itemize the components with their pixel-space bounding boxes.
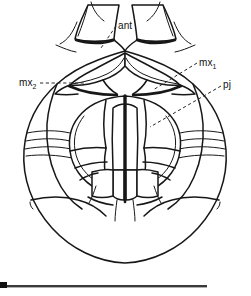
label-maxilla-two: mx2 xyxy=(19,78,37,90)
label-palp-joint: pj xyxy=(223,80,231,90)
lateral-lobe-right-notch xyxy=(217,202,220,209)
antenna-left-group xyxy=(56,2,119,52)
antenna-right-group xyxy=(132,2,195,52)
antenna-right-outer-spur xyxy=(174,22,191,44)
figure-container: ant mx1 mx2 pj xyxy=(0,0,251,296)
label-maxilla-two-subscript: 2 xyxy=(33,83,37,90)
label-maxilla-one-subscript: 1 xyxy=(213,63,217,70)
antenna-right-lateral-line xyxy=(175,45,195,52)
scale-bar-line xyxy=(3,285,207,287)
label-maxilla-one-text: mx xyxy=(199,57,213,68)
antenna-left-lateral-line xyxy=(56,45,76,52)
interantennal-notch xyxy=(114,40,137,51)
anatomical-line-drawing xyxy=(0,0,251,296)
antenna-left-segment xyxy=(75,5,119,41)
label-maxilla-one: mx1 xyxy=(199,58,217,70)
label-antenna-text: ant xyxy=(118,20,132,31)
labial-palp-right xyxy=(126,170,137,200)
labial-palp-left xyxy=(113,170,124,200)
antenna-left-outer-spur xyxy=(60,22,77,44)
scale-bar-left-cap xyxy=(0,282,7,288)
antenna-right-segment xyxy=(132,5,176,41)
lateral-lobe-left-notch xyxy=(30,202,33,209)
label-maxilla-two-text: mx xyxy=(19,77,33,88)
label-antenna: ant xyxy=(118,21,132,31)
label-palp-joint-text: pj xyxy=(223,79,231,90)
